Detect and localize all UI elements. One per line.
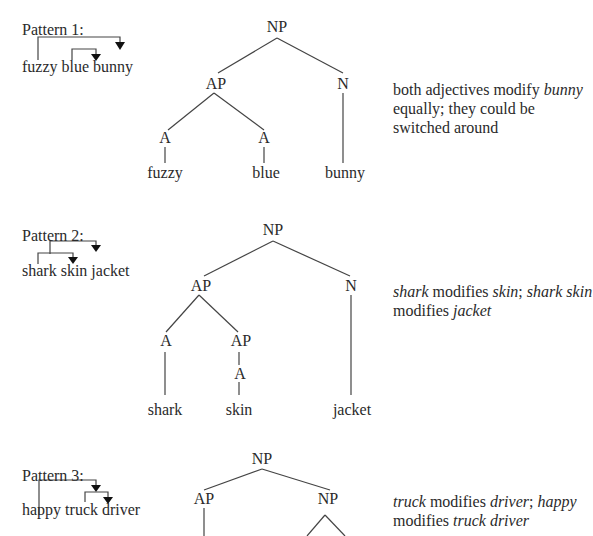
p2-node-np: NP	[263, 221, 283, 239]
desc-text: modifies	[426, 493, 490, 510]
p2-word-jacket: jacket	[333, 401, 371, 419]
p3-node-np2: NP	[318, 490, 338, 508]
desc-italic: skin	[493, 283, 519, 300]
p1-node-n: N	[337, 75, 349, 93]
p2-word-shark: shark	[148, 401, 183, 419]
p1-node-np: NP	[267, 18, 287, 36]
desc-text: equally; they could be switched around	[393, 100, 535, 136]
p2-word-skin: skin	[226, 401, 253, 419]
desc-text: modifies	[393, 512, 453, 529]
desc-text: modifies	[393, 302, 453, 319]
p1-node-a2: A	[258, 129, 270, 147]
desc-italic: shark skin	[527, 283, 592, 300]
pattern-3-phrase: happy truck driver	[22, 501, 140, 519]
pattern-2-description: shark modifies skin; shark skin modifies…	[393, 282, 593, 320]
pattern-1-description: both adjectives modify bunny equally; th…	[393, 80, 593, 137]
pattern-3-description: truck modifies driver; happy modifies tr…	[393, 492, 593, 530]
p2-node-a: A	[160, 332, 172, 350]
desc-italic: driver	[490, 493, 529, 510]
pattern-3-title: Pattern 3:	[22, 467, 84, 485]
pattern-1-phrase: fuzzy blue bunny	[22, 58, 133, 76]
desc-italic: truck	[393, 493, 426, 510]
p1-word-blue: blue	[252, 164, 280, 182]
p2-node-n: N	[345, 277, 357, 295]
desc-italic: shark	[393, 283, 429, 300]
p1-node-a1: A	[159, 129, 171, 147]
desc-text: ;	[518, 283, 526, 300]
desc-italic: happy	[537, 493, 576, 510]
desc-italic: bunny	[544, 81, 583, 98]
p3-node-np: NP	[252, 450, 272, 468]
p1-word-bunny: bunny	[325, 164, 365, 182]
p2-node-ap: AP	[191, 277, 211, 295]
pattern-1-title: Pattern 1:	[22, 21, 84, 39]
pattern-2-tree-lines	[165, 241, 351, 395]
pattern-2-phrase: shark skin jacket	[22, 262, 130, 280]
desc-italic: jacket	[453, 302, 491, 319]
desc-italic: truck driver	[453, 512, 529, 529]
p3-node-ap: AP	[194, 490, 214, 508]
pattern-1-tree-lines	[165, 38, 343, 163]
p2-node-a2: A	[234, 365, 246, 383]
desc-text: modifies	[429, 283, 493, 300]
pattern-2-title: Pattern 2:	[22, 227, 84, 245]
p2-node-ap2: AP	[231, 332, 251, 350]
desc-text: both adjectives modify	[393, 81, 544, 98]
p1-word-fuzzy: fuzzy	[147, 164, 183, 182]
p1-node-ap: AP	[206, 75, 226, 93]
